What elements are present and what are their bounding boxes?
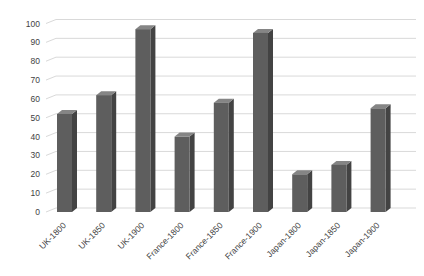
x-axis-category-label: Japan-1900 — [343, 220, 382, 259]
bar — [175, 137, 190, 212]
bar-chart-canvas: 0102030405060708090100UK-1800UK-1850UK-1… — [0, 0, 424, 276]
gridline-side-tick — [46, 208, 56, 212]
y-axis-tick-label: 90 — [31, 37, 41, 47]
chart-screenshot: 0102030405060708090100UK-1800UK-1850UK-1… — [0, 0, 424, 276]
gridline-side-tick — [46, 170, 56, 174]
gridline-side-tick — [46, 95, 56, 99]
bar — [253, 33, 268, 212]
gridline-side-tick — [46, 57, 56, 61]
bar-side-face — [229, 99, 234, 212]
x-axis-category-label: UK-1800 — [37, 220, 68, 251]
bar-side-face — [386, 104, 391, 212]
y-axis-tick-label: 50 — [31, 113, 41, 123]
bar — [214, 103, 229, 212]
bar-side-face — [307, 170, 312, 212]
bar — [292, 174, 307, 212]
gridline-side-tick — [46, 38, 56, 42]
bar-side-face — [111, 91, 116, 212]
bar-side-face — [268, 29, 273, 212]
gridline-side-tick — [46, 189, 56, 193]
bar — [57, 114, 72, 212]
bar-chart: 0102030405060708090100UK-1800UK-1850UK-1… — [0, 0, 424, 276]
y-axis-tick-label: 10 — [31, 188, 41, 198]
x-axis-category-label: UK-1900 — [116, 220, 147, 251]
y-axis-tick-label: 40 — [31, 132, 41, 142]
bar-side-face — [72, 110, 77, 212]
y-axis-tick-label: 20 — [31, 169, 41, 179]
x-axis-category-label: France-1900 — [223, 220, 264, 261]
y-axis-tick-label: 80 — [31, 56, 41, 66]
gridline-side-tick — [46, 133, 56, 137]
bar-side-face — [150, 25, 155, 212]
y-axis-tick-label: 0 — [35, 207, 40, 217]
bar — [96, 95, 111, 212]
bar — [331, 165, 346, 212]
bar — [135, 29, 150, 212]
gridline-side-tick — [46, 20, 56, 24]
x-axis-category-label: Japan-1850 — [303, 220, 342, 259]
bar-side-face — [190, 133, 195, 212]
bar-side-face — [346, 161, 351, 212]
x-axis-category-label: UK-1850 — [76, 220, 107, 251]
gridline-side-tick — [46, 76, 56, 80]
gridline-side-tick — [46, 114, 56, 118]
bar — [371, 108, 386, 212]
x-axis-category-label: France-1800 — [144, 220, 185, 261]
x-axis-category-label: France-1850 — [184, 220, 225, 261]
y-axis-tick-label: 100 — [26, 19, 40, 29]
gridline-side-tick — [46, 151, 56, 155]
y-axis-tick-label: 30 — [31, 150, 41, 160]
y-axis-tick-label: 70 — [31, 75, 41, 85]
y-axis-tick-label: 60 — [31, 94, 41, 104]
x-axis-category-label: Japan-1800 — [264, 220, 303, 259]
